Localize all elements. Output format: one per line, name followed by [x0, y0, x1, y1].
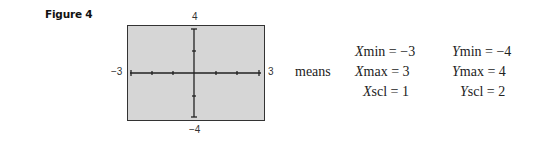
means-label: means — [295, 64, 331, 80]
eq-text: max = 4 — [460, 64, 506, 79]
var: X — [355, 64, 364, 79]
eq-text: scl = 1 — [372, 84, 409, 99]
figure-label: Figure 4 — [45, 8, 92, 20]
xscl-equation: Xscl = 1 — [363, 84, 409, 100]
eq-text: min = −4 — [460, 44, 512, 59]
var: X — [355, 44, 364, 59]
label-ymax: 4 — [192, 11, 198, 22]
label-ymin: −4 — [189, 124, 200, 135]
yscl-equation: Yscl = 2 — [460, 84, 505, 100]
ymax-equation: Ymax = 4 — [452, 64, 506, 80]
var: Y — [452, 64, 460, 79]
label-xmax: 3 — [268, 66, 274, 77]
label-xmin: −3 — [111, 66, 122, 77]
axes — [128, 26, 263, 119]
var: Y — [452, 44, 460, 59]
xmax-equation: Xmax = 3 — [355, 64, 410, 80]
xmin-equation: Xmin = −3 — [355, 44, 415, 60]
var: Y — [460, 84, 468, 99]
var: X — [363, 84, 372, 99]
ymin-equation: Ymin = −4 — [452, 44, 511, 60]
eq-text: scl = 2 — [468, 84, 505, 99]
eq-text: min = −3 — [364, 44, 416, 59]
eq-text: max = 3 — [364, 64, 410, 79]
graph-window — [127, 25, 265, 121]
